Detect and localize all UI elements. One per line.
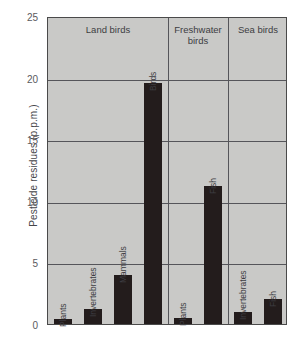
- bar-category-label: Fish: [268, 291, 278, 307]
- bar: [204, 186, 223, 324]
- gridline: [48, 264, 286, 265]
- bar-category-label: Birds: [148, 71, 158, 90]
- group-separator: [168, 18, 169, 324]
- bar-category-label: Invertebrates: [88, 268, 98, 318]
- plot-area: Land birdsFreshwater birdsSea birds Plan…: [47, 17, 287, 325]
- group-separator: [228, 18, 229, 324]
- bar-category-label: Fish: [208, 178, 218, 194]
- y-axis-tick-label: 25: [27, 12, 38, 23]
- bar-category-label: Plants: [178, 302, 188, 326]
- group-header-freshwater-birds: Freshwater birds: [168, 24, 228, 46]
- bar-category-label: Invertebrates: [238, 270, 248, 320]
- pesticide-residues-bar-chart: Pesticide residues (p.p.m.) 0510152025 L…: [0, 0, 298, 351]
- gridline: [48, 141, 286, 142]
- gridline: [48, 80, 286, 81]
- y-axis-tick-label: 5: [32, 258, 38, 269]
- gridline: [48, 203, 286, 204]
- y-axis-tick-label: 20: [27, 73, 38, 84]
- group-header-sea-birds: Sea birds: [228, 24, 288, 35]
- bar-category-label: Mammals: [118, 246, 128, 283]
- y-axis-tick-label: 10: [27, 196, 38, 207]
- group-header-land-birds: Land birds: [48, 24, 168, 35]
- bar-category-label: Plants: [58, 303, 68, 327]
- bar: [144, 83, 163, 324]
- y-axis-tick-label: 0: [32, 320, 38, 331]
- y-axis-tick-label: 15: [27, 135, 38, 146]
- y-axis-tick-labels: 0510152025: [0, 0, 45, 351]
